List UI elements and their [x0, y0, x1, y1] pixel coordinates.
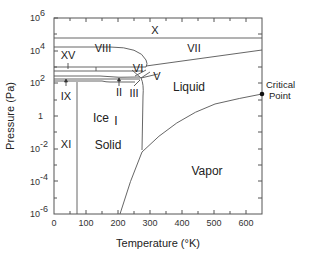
label-v: V [153, 70, 161, 82]
critical-point-marker [260, 92, 265, 97]
label-ix: IX [61, 90, 72, 102]
label-vi: VI [133, 62, 143, 74]
label-x: X [151, 24, 159, 36]
svg-text:10: 10 [30, 209, 40, 219]
x-axis-title: Temperature (°K) [116, 237, 200, 249]
phase-diagram: 106 104 102 1 10-2 10-4 10-6 0 100 200 3… [0, 0, 311, 260]
label-vii: VII [187, 42, 200, 54]
ice-i-melting-curve [141, 78, 143, 150]
label-ice: Ice [93, 111, 109, 125]
svg-text:400: 400 [174, 218, 189, 228]
critical-point-label-line1: Critical [266, 79, 295, 90]
svg-text:10: 10 [30, 144, 40, 154]
svg-text:600: 600 [238, 218, 253, 228]
label-arrows [65, 63, 141, 86]
label-liquid: Liquid [173, 80, 205, 94]
svg-text:500: 500 [206, 218, 221, 228]
svg-text:-6: -6 [40, 204, 48, 214]
label-solid: Solid [95, 138, 122, 152]
label-xv: XV [61, 49, 76, 61]
svg-text:-4: -4 [40, 172, 48, 182]
svg-text:6: 6 [40, 8, 45, 18]
vaporization-curve [120, 94, 262, 214]
y-axis-title: Pressure (Pa) [4, 82, 16, 150]
svg-text:10: 10 [30, 177, 40, 187]
x-axis-labels: 0 100 200 300 400 500 600 [51, 218, 253, 228]
svg-text:0: 0 [51, 218, 56, 228]
y-axis-labels: 106 104 102 1 10-2 10-4 10-6 [30, 8, 48, 219]
svg-text:4: 4 [40, 41, 45, 51]
critical-point-label-line2: Point [269, 90, 291, 101]
svg-text:200: 200 [110, 218, 125, 228]
label-vapor: Vapor [191, 164, 222, 178]
label-ii: II [116, 86, 122, 98]
phase-boundaries [54, 38, 262, 214]
svg-text:2: 2 [40, 73, 45, 83]
label-xi: XI [61, 138, 71, 150]
svg-text:100: 100 [78, 218, 93, 228]
label-ice-i: I [114, 114, 117, 128]
ice-vii-boundary [146, 50, 262, 66]
label-iii: III [129, 87, 138, 99]
svg-text:10: 10 [30, 13, 40, 23]
svg-text:1: 1 [38, 111, 43, 121]
svg-text:300: 300 [142, 218, 157, 228]
y-axis-ticks [54, 18, 262, 198]
svg-text:10: 10 [30, 46, 40, 56]
svg-text:10: 10 [30, 78, 40, 88]
svg-text:-2: -2 [40, 139, 48, 149]
label-viii: VIII [95, 42, 112, 54]
